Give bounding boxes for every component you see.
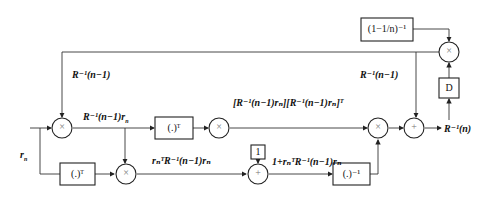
multiply-icon-gain: ×	[372, 122, 384, 132]
denominator-label: 1+rₙᵀR⁻¹(n−1)rₙ	[272, 157, 341, 167]
inverse-label: (.)⁻¹	[333, 169, 370, 179]
transpose-top-label: (.)ᵀ	[155, 123, 193, 133]
one-label: 1	[251, 147, 265, 157]
feedback-label-right: R⁻¹(n−1)	[360, 70, 398, 80]
multiply-icon-top: ×	[443, 46, 455, 56]
feedback-label-left: R⁻¹(n−1)	[72, 70, 110, 80]
multiply-icon-quad: ×	[120, 168, 132, 178]
add-icon-denominator: +	[252, 168, 264, 178]
outer-product-label: [R⁻¹(n−1)rₙ][R⁻¹(n−1)rₙ]ᵀ	[233, 98, 343, 108]
block-diagram: × × × × + × + (1−1/n)⁻¹ D (.)ᵀ (.)ᵀ 1 (.…	[0, 0, 489, 197]
output-label: R⁻¹(n)	[444, 124, 471, 134]
multiply-icon-input: ×	[56, 122, 68, 132]
add-icon-output: +	[408, 122, 420, 132]
mult1-output-label: R⁻¹(n−1)rn	[83, 112, 128, 124]
transpose-bottom-label: (.)ᵀ	[60, 169, 95, 179]
input-label: rn	[20, 150, 27, 162]
delay-label: D	[439, 83, 459, 93]
multiply-icon-outer: ×	[213, 122, 225, 132]
quad-form-label: rₙᵀR⁻¹(n−1)rₙ	[152, 156, 211, 166]
forget-factor-label: (1−1/n)⁻¹	[361, 24, 413, 34]
